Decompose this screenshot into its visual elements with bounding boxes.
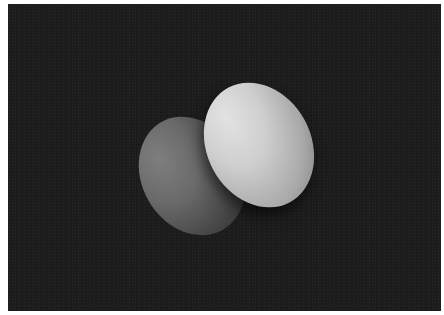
photo-frame: Two glowing egg-shaped lobes on a dark b… — [8, 4, 441, 311]
